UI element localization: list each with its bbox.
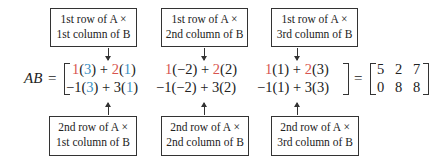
label-line: 2nd row of A × [162, 120, 248, 135]
label-row2-col2: 2nd row of A × 2nd column of B [161, 116, 249, 156]
result-r2c3: 8 [413, 79, 420, 96]
down-arrow-icon [297, 48, 298, 60]
result-r2c2: 8 [395, 79, 402, 96]
label-line: 1st column of B [51, 27, 136, 42]
label-line: 2nd row of A × [50, 120, 136, 135]
label-row2-col1: 2nd row of A × 1st column of B [49, 116, 137, 156]
up-arrow-icon [297, 103, 298, 115]
label-row1-col1: 1st row of A × 1st column of B [50, 8, 137, 47]
result-r1c1: 5 [377, 61, 384, 78]
expr-r2c2: −1(−2) + 3(2) [156, 79, 236, 96]
label-row1-col3: 1st row of A × 3rd column of B [271, 8, 358, 47]
equals-sign: = [48, 70, 56, 87]
result-left-bracket [370, 63, 376, 95]
down-arrow-icon [108, 48, 109, 60]
up-arrow-icon [204, 103, 205, 115]
label-line: 3rd column of B [272, 27, 357, 42]
up-arrow-icon [108, 103, 109, 115]
expr-r1c3: 1(1) + 2(3) [265, 61, 329, 78]
label-line: 1st row of A × [272, 12, 357, 27]
label-line: 2nd row of A × [272, 120, 358, 135]
expr-r2c3: −1(1) + 3(3) [257, 79, 329, 96]
label-line: 3rd column of B [272, 135, 358, 150]
label-line: 1st column of B [50, 135, 136, 150]
label-row1-col2: 1st row of A × 2nd column of B [161, 8, 248, 47]
result-r1c3: 7 [413, 61, 420, 78]
equals-sign-2: = [354, 70, 362, 87]
expr-r2c1: −1(3) + 3(1) [66, 79, 138, 96]
label-line: 1st row of A × [51, 12, 136, 27]
right-bracket [343, 63, 349, 95]
lhs-AB: AB [24, 70, 42, 87]
expr-r1c1: 1(3) + 2(1) [72, 61, 136, 78]
result-r1c2: 2 [395, 61, 402, 78]
label-line: 1st row of A × [162, 12, 247, 27]
expr-r1c2: 1(−2) + 2(2) [165, 61, 237, 78]
label-line: 2nd column of B [162, 27, 247, 42]
label-line: 2nd column of B [162, 135, 248, 150]
label-row2-col3: 2nd row of A × 3rd column of B [271, 116, 359, 156]
result-r2c1: 0 [377, 79, 384, 96]
down-arrow-icon [204, 48, 205, 60]
result-right-bracket [423, 63, 429, 95]
